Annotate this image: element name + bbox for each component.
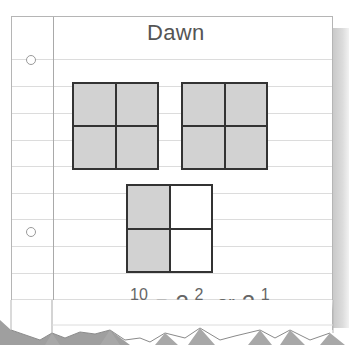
punch-hole: [26, 227, 36, 237]
model-cell: [74, 84, 115, 125]
model-cell: [183, 84, 224, 125]
model-cell: [117, 84, 158, 125]
model-cell: [171, 230, 212, 272]
model-cell: [128, 186, 169, 228]
model-cell: [74, 127, 115, 168]
paper-shadow: [333, 28, 349, 328]
model-cell: [128, 230, 169, 272]
ruled-line: [12, 140, 332, 141]
model-cell: [117, 127, 158, 168]
model-cell: [171, 186, 212, 228]
model-cell: [183, 127, 224, 168]
ruled-line: [12, 166, 332, 167]
model-cell: [226, 127, 267, 168]
margin-line: [53, 17, 54, 330]
ruled-line: [12, 273, 332, 274]
ruled-line: [12, 59, 332, 60]
fraction-model-2: [181, 82, 268, 170]
torn-edge: [0, 300, 351, 345]
student-name: Dawn: [147, 20, 204, 46]
ruled-line: [12, 86, 332, 87]
punch-hole: [26, 55, 36, 65]
fraction-model-1: [72, 82, 159, 170]
ruled-line: [12, 113, 332, 114]
fraction-model-3: [126, 184, 213, 273]
model-cell: [226, 84, 267, 125]
notebook-paper: [11, 16, 333, 330]
